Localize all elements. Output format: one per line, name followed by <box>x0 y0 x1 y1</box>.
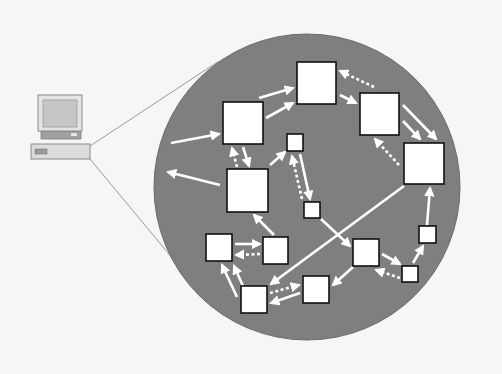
node-E <box>227 169 268 212</box>
node-D <box>404 143 444 184</box>
network-diagram <box>0 0 502 374</box>
node-M <box>303 276 329 303</box>
node-I <box>263 237 288 264</box>
node-J <box>353 239 379 266</box>
node-L <box>402 266 418 282</box>
node-A <box>223 102 263 144</box>
drive-slot-icon <box>35 149 47 154</box>
node-H <box>206 234 232 261</box>
desktop-computer-icon <box>31 95 90 159</box>
node-C <box>360 93 399 135</box>
node-N <box>241 286 267 313</box>
node-B <box>297 62 336 104</box>
diagram-canvas <box>0 0 502 374</box>
node-G <box>304 202 320 218</box>
power-button-icon <box>71 133 77 136</box>
node-F <box>287 134 303 151</box>
monitor-screen <box>43 100 77 127</box>
node-K <box>419 226 436 243</box>
